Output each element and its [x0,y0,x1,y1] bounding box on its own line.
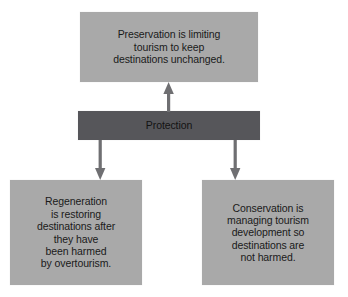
node-regeneration[interactable]: Regeneration is restoring destinations a… [10,180,142,285]
arrow-down-right-icon [230,140,240,180]
node-conservation[interactable]: Conservation is managing tourism develop… [202,180,334,285]
arrow-down-left-icon [95,140,105,180]
node-preservation[interactable]: Preservation is limiting tourism to keep… [80,12,258,82]
node-protection[interactable]: Protection [78,111,260,140]
arrow-up-icon [163,82,173,112]
concept-map-diagram: Preservation is limiting tourism to keep… [0,0,348,297]
